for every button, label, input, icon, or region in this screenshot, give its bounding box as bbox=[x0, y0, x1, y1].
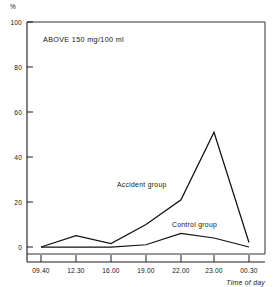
y-tick-label-40: 40 bbox=[14, 154, 22, 161]
x-axis-title: Time of day bbox=[226, 279, 265, 287]
x-tick-label-4: 22.00 bbox=[172, 267, 190, 274]
x-tick-label-5: 23.00 bbox=[205, 267, 223, 274]
y-axis-unit-label: % bbox=[10, 3, 16, 10]
x-tick-label-3: 19.00 bbox=[137, 267, 155, 274]
series-label-control-group: Control group bbox=[172, 221, 217, 229]
y-tick-label-20: 20 bbox=[14, 199, 22, 206]
x-tick-marks bbox=[41, 255, 249, 262]
plot-frame bbox=[27, 22, 265, 254]
x-tick-label-0: 09.40 bbox=[32, 267, 50, 274]
y-tick-label-100: 100 bbox=[10, 19, 22, 26]
threshold-annotation: ABOVE 150 mg/100 ml bbox=[43, 35, 124, 44]
chart-canvas: % 100 80 60 40 20 0 09.40 12.30 16.00 19… bbox=[0, 0, 276, 287]
y-tick-marks bbox=[27, 22, 33, 247]
chart-figure: % 100 80 60 40 20 0 09.40 12.30 16.00 19… bbox=[0, 0, 276, 287]
x-tick-label-2: 16.00 bbox=[102, 267, 120, 274]
y-tick-label-80: 80 bbox=[14, 64, 22, 71]
y-tick-label-60: 60 bbox=[14, 109, 22, 116]
x-tick-label-6: 00.30 bbox=[240, 267, 258, 274]
y-tick-label-0: 0 bbox=[18, 244, 22, 251]
series-label-accident-group: Accident group bbox=[117, 181, 167, 189]
series-line-accident-group bbox=[41, 132, 249, 247]
x-tick-label-1: 12.30 bbox=[67, 267, 85, 274]
series-line-control-group bbox=[41, 234, 249, 248]
